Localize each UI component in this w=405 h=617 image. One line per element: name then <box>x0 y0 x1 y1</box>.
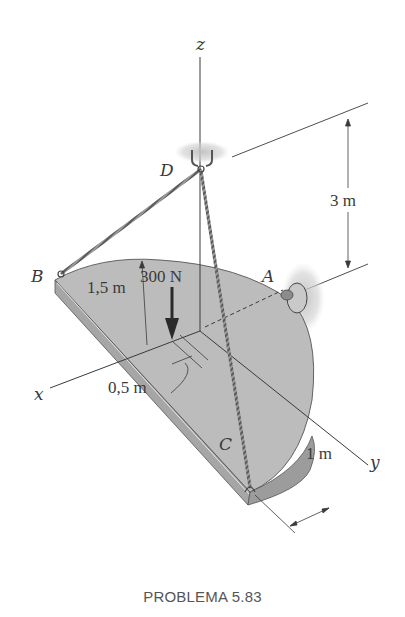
axis-label-x: x <box>34 384 44 404</box>
cable-BD <box>62 170 200 273</box>
dim-label-load-offset: 0,5 m <box>108 378 147 397</box>
statics-diagram: z x y D B A C 300 N 1,5 m 0,5 m 3 m 1 m <box>0 0 405 617</box>
dimension-C-offset <box>255 495 329 533</box>
point-label-C: C <box>219 434 232 454</box>
figure-caption: PROBLEMA 5.83 <box>0 588 405 605</box>
load-label: 300 N <box>140 267 182 286</box>
point-label-D: D <box>159 160 174 180</box>
dim-label-height: 3 m <box>330 191 356 210</box>
dim-label-radius: 1,5 m <box>87 278 126 297</box>
point-label-A: A <box>260 266 274 286</box>
dim-label-C-offset: 1 m <box>306 444 332 463</box>
axis-label-z: z <box>195 34 206 54</box>
axis-label-y: y <box>369 452 380 472</box>
point-label-B: B <box>30 266 44 286</box>
ceiling-support-D <box>174 141 230 166</box>
